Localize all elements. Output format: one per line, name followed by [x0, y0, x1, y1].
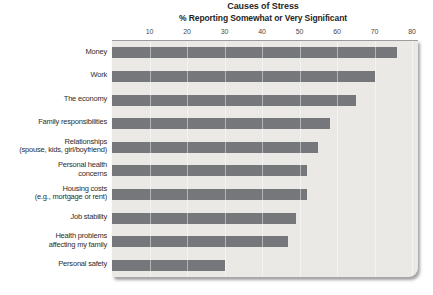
category-label-line: affecting my family	[0, 241, 107, 250]
category-label-6: Housing costs(e.g., mortgage or rent)	[0, 185, 107, 202]
category-label-line: Personal safety	[0, 260, 107, 269]
category-label-5: Personal healthconcerns	[0, 161, 107, 178]
category-label-line: Job stability	[0, 213, 107, 222]
category-label-line: Family responsibilities	[0, 118, 107, 127]
category-label-4: Relationships(spouse, kids, girl/boyfrie…	[0, 138, 107, 155]
category-label-2: The economy	[0, 95, 107, 104]
category-labels: MoneyWorkThe economyFamily responsibilit…	[0, 40, 107, 276]
gridline-60	[337, 41, 338, 277]
gridline-50	[300, 41, 301, 277]
category-label-7: Job stability	[0, 213, 107, 222]
x-tick-label-50: 50	[285, 28, 315, 35]
gridline-10	[150, 41, 151, 277]
x-tick-label-80: 80	[397, 28, 427, 35]
gridline-70	[375, 41, 376, 277]
category-label-9: Personal safety	[0, 260, 107, 269]
category-label-line: Work	[0, 71, 107, 80]
bar-9	[112, 260, 225, 271]
gridline-30	[225, 41, 226, 277]
chart-title: Causes of Stress	[112, 1, 414, 11]
x-tick-label-40: 40	[247, 28, 277, 35]
category-label-line: Money	[0, 48, 107, 57]
x-tick-label-10: 10	[135, 28, 165, 35]
category-label-1: Work	[0, 71, 107, 80]
gridline-40	[262, 41, 263, 277]
category-label-0: Money	[0, 48, 107, 57]
x-tick-label-70: 70	[360, 28, 390, 35]
bar-0	[112, 47, 397, 58]
x-axis-tick-labels: 1020304050607080	[0, 28, 433, 39]
bar-1	[112, 71, 375, 82]
gridline-20	[187, 41, 188, 277]
bar-7	[112, 213, 296, 224]
plot-area	[112, 40, 418, 277]
gridline-80	[412, 41, 413, 277]
bar-5	[112, 165, 307, 176]
x-tick-label-30: 30	[210, 28, 240, 35]
category-label-3: Family responsibilities	[0, 118, 107, 127]
category-label-line: concerns	[0, 170, 107, 179]
bar-6	[112, 189, 307, 200]
category-label-line: (e.g., mortgage or rent)	[0, 193, 107, 202]
bar-3	[112, 118, 330, 129]
bar-4	[112, 142, 318, 153]
stress-bar-chart: Causes of Stress % Reporting Somewhat or…	[0, 0, 433, 295]
category-label-line: The economy	[0, 95, 107, 104]
category-label-8: Health problemsaffecting my family	[0, 232, 107, 249]
x-tick-label-60: 60	[322, 28, 352, 35]
chart-subtitle: % Reporting Somewhat or Very Significant	[112, 13, 414, 23]
x-tick-label-20: 20	[172, 28, 202, 35]
category-label-line: (spouse, kids, girl/boyfriend)	[0, 146, 107, 155]
